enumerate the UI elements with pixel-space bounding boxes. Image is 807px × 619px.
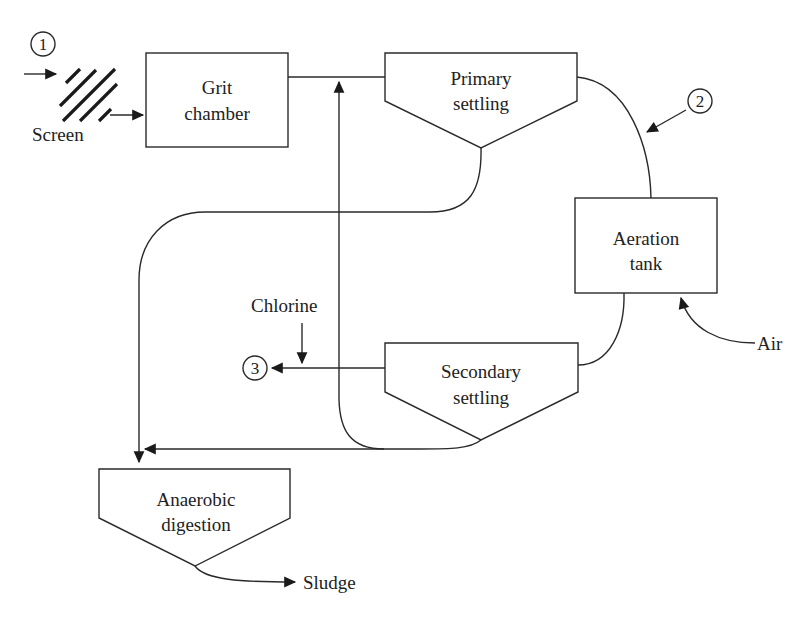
primary-settling-tank: Primary settling <box>385 53 577 148</box>
svg-text:settling: settling <box>453 387 509 408</box>
primary-to-aeration-line <box>577 77 651 198</box>
marker-3: 3 <box>243 356 267 380</box>
svg-text:1: 1 <box>39 35 48 54</box>
marker-2: 2 <box>688 89 712 113</box>
secondary-settling-tank: Secondary settling <box>385 343 578 440</box>
aeration-tank-box: Aeration tank <box>575 198 717 293</box>
grit-chamber-box: Grit chamber <box>146 53 288 147</box>
svg-text:chamber: chamber <box>184 103 250 124</box>
screen-label: Screen <box>32 124 84 145</box>
svg-text:Grit: Grit <box>202 77 233 98</box>
svg-text:Secondary: Secondary <box>441 361 522 382</box>
marker-1: 1 <box>31 32 55 56</box>
air-label: Air <box>757 333 783 354</box>
svg-text:Primary: Primary <box>450 68 512 89</box>
svg-text:tank: tank <box>630 253 663 274</box>
air-to-aeration-arrow <box>681 298 755 343</box>
recycle-sludge-line <box>339 82 384 449</box>
chlorine-label: Chlorine <box>251 295 318 316</box>
marker-2-pointer <box>647 110 686 132</box>
anaerobic-digestion-tank: Anaerobic digestion <box>99 469 290 566</box>
process-flow-diagram: 1 Screen Grit chamber Primary settling 2… <box>0 0 807 619</box>
screen-icon <box>60 69 117 121</box>
sludge-arrow <box>195 566 295 582</box>
svg-text:3: 3 <box>251 359 260 378</box>
svg-text:Anaerobic: Anaerobic <box>156 489 235 510</box>
svg-text:2: 2 <box>696 92 705 111</box>
svg-text:Aeration: Aeration <box>613 228 680 249</box>
svg-text:settling: settling <box>453 93 509 114</box>
svg-text:digestion: digestion <box>161 514 231 535</box>
aeration-to-secondary-line <box>578 293 624 365</box>
secondary-sludge-to-digester-line <box>145 440 481 449</box>
sludge-label: Sludge <box>303 572 356 593</box>
